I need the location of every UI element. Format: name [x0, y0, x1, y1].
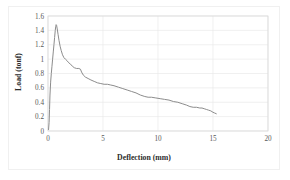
series-line-0: [49, 25, 217, 130]
y-tick-label: 1.4: [35, 27, 44, 35]
x-tick-label: 0: [46, 135, 50, 143]
y-axis-tick-labels: 00.20.40.60.811.21.41.6: [35, 13, 44, 136]
y-tick-label: 1: [40, 56, 44, 64]
x-tick-label: 10: [154, 135, 162, 143]
y-tick-label: 1.2: [35, 41, 44, 49]
x-axis-tick-labels: 05101520: [46, 135, 272, 143]
x-tick-label: 5: [101, 135, 105, 143]
y-tick-label: 0.2: [35, 113, 44, 121]
y-axis-title: Load (tonf): [14, 53, 23, 91]
y-tick-label: 0.4: [35, 99, 44, 107]
data-series-layer: [49, 25, 217, 130]
x-tick-label: 20: [264, 135, 272, 143]
y-tick-label: 1.6: [35, 13, 44, 21]
y-tick-label: 0: [40, 128, 44, 136]
y-tick-label: 0.6: [35, 84, 44, 92]
chart-figure: 05101520 00.20.40.60.811.21.41.6 Deflect…: [0, 0, 290, 180]
load-deflection-chart: 05101520 00.20.40.60.811.21.41.6 Deflect…: [0, 0, 290, 180]
x-tick-label: 15: [209, 135, 217, 143]
gridlines: [48, 16, 268, 131]
x-axis-title: Deflection (mm): [117, 153, 171, 162]
y-tick-label: 0.8: [35, 70, 44, 78]
